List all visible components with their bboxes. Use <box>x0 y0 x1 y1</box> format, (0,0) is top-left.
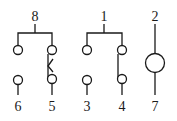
contact-4-lower-terminal <box>118 75 127 84</box>
pin-label-6: 6 <box>15 99 22 114</box>
pin-label-5: 5 <box>49 99 56 114</box>
relay-diagram: 8 6 5 1 3 4 2 7 <box>0 0 177 121</box>
pin-label-7: 7 <box>152 99 159 114</box>
coil-circle-icon <box>146 54 165 73</box>
contact-5-upper-terminal <box>48 46 57 55</box>
common-1-bar <box>87 33 122 45</box>
pin-label-8: 8 <box>32 9 39 24</box>
contact-6-upper-terminal <box>14 46 23 55</box>
contact-5-lower-terminal <box>48 75 57 84</box>
contact-6-lower-terminal <box>14 76 23 85</box>
switch-group-middle: 1 3 4 <box>83 9 127 114</box>
pin-label-1: 1 <box>101 9 108 24</box>
coil: 2 7 <box>146 9 165 114</box>
contact-4-upper-terminal <box>118 46 127 55</box>
contact-3-lower-terminal <box>83 76 92 85</box>
common-8-bar <box>18 33 52 45</box>
triangle-marker-icon <box>48 59 53 72</box>
pin-label-3: 3 <box>84 99 91 114</box>
switch-group-left: 8 6 5 <box>14 9 57 114</box>
pin-label-4: 4 <box>119 99 126 114</box>
pin-label-2: 2 <box>152 9 159 24</box>
contact-3-upper-terminal <box>83 46 92 55</box>
